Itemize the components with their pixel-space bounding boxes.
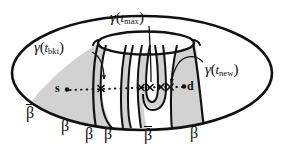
label-gamma-t-max: γ(tmax) (110, 10, 144, 26)
beta-bar-glyph-1: β (26, 104, 34, 121)
label-beta-bar-1: β (26, 104, 34, 121)
crater-rim (98, 32, 194, 55)
path-endpoint-dot-source (65, 87, 70, 92)
paren-close-max: ) (139, 9, 144, 25)
label-gamma-t-new: γ(tnew) (205, 62, 238, 78)
paren-close-new: ) (233, 61, 238, 77)
label-path-source: s (55, 82, 60, 94)
path-endpoint-dot-destination (182, 84, 187, 89)
label-beta-1: β (61, 118, 69, 134)
label-beta-bar-2: β (85, 125, 93, 142)
label-beta-2: β (104, 126, 112, 142)
label-path-destination: d (187, 80, 194, 92)
subscript-new: new (219, 68, 233, 78)
paren-close-bkt: ) (59, 39, 64, 55)
subscript-bkt: bkt (48, 46, 59, 56)
beta-glyph-3: β (190, 124, 198, 141)
figure-canvas: d ============ --> (0, 0, 285, 154)
subscript-max: max (124, 16, 139, 26)
beta-bar-glyph-2: β (85, 125, 93, 142)
label-beta-3: β (190, 125, 198, 141)
beta-bar-glyph-3: β (144, 126, 152, 143)
beta-glyph-2: β (104, 125, 112, 142)
beta-glyph-1: β (61, 117, 69, 134)
label-beta-bar-3: β (144, 126, 152, 143)
label-gamma-t-bkt: γ(tbkt) (34, 40, 64, 56)
